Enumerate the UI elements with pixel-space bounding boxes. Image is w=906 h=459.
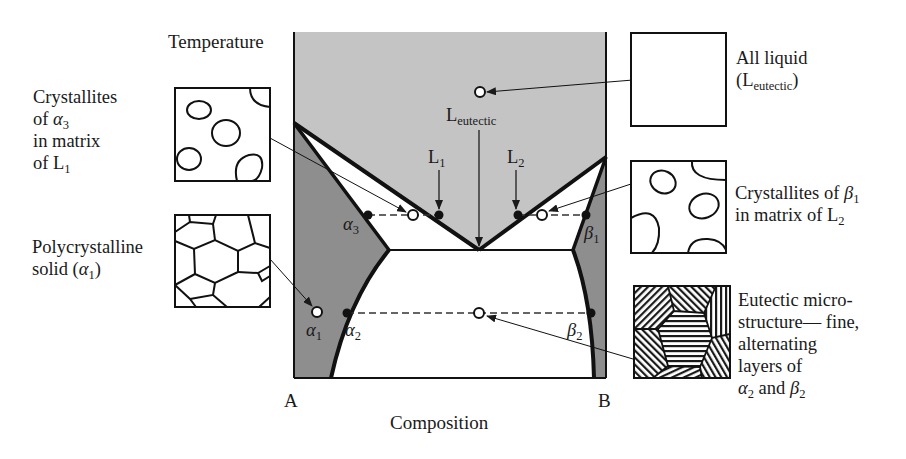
phase-diagram — [294, 32, 606, 378]
alpha3-label: α3 — [343, 213, 359, 235]
component-b-label: B — [598, 390, 611, 412]
l1-label: L1 — [428, 146, 446, 168]
callout-eutectic-microstructure: Eutectic micro- structure— fine, alterna… — [738, 289, 859, 399]
callout-polycrystalline: Polycrystalline solid (α1) — [32, 236, 143, 280]
beta2-label: β2 — [567, 319, 582, 341]
x-axis-label: Composition — [390, 412, 488, 434]
point-alpha2 — [343, 309, 352, 318]
alpha2-label: α2 — [345, 319, 361, 341]
point-beta1 — [582, 211, 591, 220]
l2-label: L2 — [507, 146, 525, 168]
beta1-label: β1 — [584, 222, 599, 244]
y-axis-label: Temperature — [168, 31, 264, 53]
micrograph-alpha3-in-l1 — [175, 88, 270, 181]
point-alpha3 — [364, 211, 373, 220]
micrograph-beta1-in-l2 — [631, 161, 726, 253]
point-beta1-state — [537, 210, 547, 220]
point-alpha1-state — [312, 307, 322, 317]
point-alpha3-state — [408, 210, 418, 220]
callout-beta1-crystallites: Crystallites of β1 in matrix of L2 — [735, 182, 859, 226]
component-a-label: A — [284, 390, 298, 412]
micrograph-all-liquid — [631, 33, 726, 126]
micrograph-eutectic-lamellae — [634, 286, 730, 378]
alpha1-label: α1 — [306, 319, 322, 341]
point-eutectic-state — [474, 308, 484, 318]
l-eutectic-label: Leutectic — [446, 104, 496, 126]
callout-alpha3-crystallites: Crystallites of α3 in matrix of L1 — [33, 86, 117, 174]
micrograph-polycrystalline-alpha1 — [175, 215, 270, 307]
point-beta2 — [587, 309, 596, 318]
point-l2 — [514, 211, 523, 220]
callout-all-liquid: All liquid (Leutectic) — [736, 47, 807, 91]
point-liquid-state — [475, 87, 485, 97]
point-l1 — [435, 211, 444, 220]
